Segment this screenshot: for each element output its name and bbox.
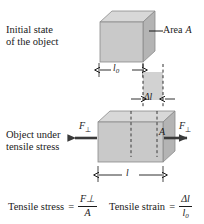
initial-state-caption-line1: Initial state [6,24,58,36]
force-right-label: F⊥ [179,120,191,134]
tensile-stress-strain-figure: Initial state of the object Object under… [0,0,204,224]
initial-length-subscript: 0 [116,67,120,75]
formula-tensile-strain-fraction: Δl l0 [179,194,192,220]
stressed-state-caption: Object under tensile stress [6,129,61,154]
fraction-bar [179,206,192,207]
formula-tensile-strain-equals: = [169,201,175,212]
formula-tensile-stress-lhs: Tensile stress [8,201,64,212]
force-left-subscript: ⊥ [85,126,91,134]
initial-state-caption: Initial state of the object [6,24,58,49]
lower-box-front-face [98,122,163,162]
area-label: AreaA [163,24,192,36]
formula-tensile-stress-numerator: F⊥ [78,194,97,205]
force-right-subscript: ⊥ [185,126,191,134]
extension-label: Δl [144,92,152,103]
formula-tensile-stress-fraction: F⊥ A [78,194,97,218]
formula-tensile-stress-denominator: A [83,208,93,219]
dimension-l0 [99,63,143,77]
formula-tensile-strain-denominator: l0 [180,208,190,220]
formula-tensile-strain: Tensile strain = Δl l0 [109,194,192,220]
formula-tensile-strain-lhs: Tensile strain [109,201,165,212]
area-label-symbol: A [185,24,191,35]
force-left-label: F⊥ [79,120,91,134]
dimension-l [98,166,163,182]
area-label-text: Area [163,24,182,35]
initial-state-caption-line2: of the object [6,36,58,48]
stressed-state-caption-line2: tensile stress [6,141,61,153]
upper-cube-front-face [100,22,143,62]
formula-tensile-stress: Tensile stress = F⊥ A [8,194,97,218]
stressed-state-caption-line1: Object under [6,129,61,141]
area-inner-label: A [159,126,165,138]
formula-tensile-stress-equals: = [68,201,74,212]
lower-box-top-face [98,111,175,122]
final-length-label: l [126,168,129,179]
initial-length-label: l0 [113,63,119,75]
upper-cube [100,11,155,62]
formula-tensile-strain-numerator: Δl [179,194,192,205]
